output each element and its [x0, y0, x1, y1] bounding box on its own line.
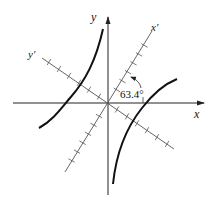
x-axis-label: x [193, 107, 200, 121]
rotated-axes-diagram: y x x′ y′ 63.4° [0, 0, 212, 199]
angle-arc-arrow [131, 77, 141, 88]
y-prime-axis-label: y′ [27, 48, 36, 60]
rotation-angle-label: 63.4° [120, 88, 144, 100]
x-prime-axis-label: x′ [150, 21, 159, 33]
y-axis-label: y [90, 10, 97, 24]
